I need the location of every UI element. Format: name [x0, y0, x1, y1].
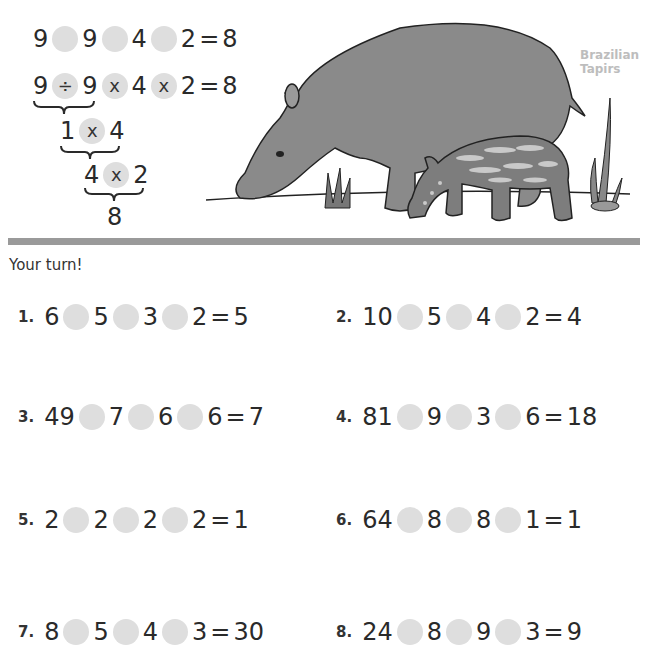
equals-sign: = [544, 617, 564, 647]
example-step1: 1 x 4 [60, 116, 125, 146]
operator-blank[interactable] [446, 619, 472, 645]
problem-number: 7. [18, 617, 34, 647]
operator-blank[interactable] [446, 404, 472, 430]
term: 8 [427, 617, 442, 647]
term: 2 [133, 160, 148, 190]
problem-8: 8. 24 8 9 3 = 9 [336, 617, 582, 647]
term: 6 [44, 302, 59, 332]
operator-blank[interactable] [113, 619, 139, 645]
term: 6 [207, 402, 222, 432]
term: 1 [60, 116, 75, 146]
operator-blank[interactable] [63, 507, 89, 533]
term: 3 [525, 617, 540, 647]
operator-blank[interactable] [397, 304, 423, 330]
term: 2 [181, 71, 196, 101]
operator-multiply: x [151, 73, 177, 99]
operator-blank[interactable] [446, 507, 472, 533]
term: 4 [132, 71, 147, 101]
problem-number: 6. [336, 505, 352, 535]
term: 8 [476, 505, 491, 535]
result: 18 [567, 402, 598, 432]
operator-blank[interactable] [128, 404, 154, 430]
operator-blank[interactable] [52, 26, 78, 52]
operator-blank[interactable] [162, 619, 188, 645]
operator-blank[interactable] [495, 404, 521, 430]
plant-icon [591, 158, 598, 203]
brace-icon [33, 100, 95, 116]
term: 4 [143, 617, 158, 647]
result: 7 [249, 402, 264, 432]
term: 6 [525, 402, 540, 432]
term: 8 [427, 505, 442, 535]
term: 9 [476, 617, 491, 647]
term: 1 [525, 505, 540, 535]
operator-blank[interactable] [113, 304, 139, 330]
equals-sign: = [210, 505, 230, 535]
term: 3 [192, 617, 207, 647]
operator-blank[interactable] [397, 619, 423, 645]
operator-blank[interactable] [495, 507, 521, 533]
problem-number: 2. [336, 302, 352, 332]
term: 6 [158, 402, 173, 432]
equals-sign: = [544, 402, 564, 432]
term: 5 [427, 302, 442, 332]
term: 3 [476, 402, 491, 432]
equals-sign: = [544, 505, 564, 535]
problem-4: 4. 81 9 3 6 = 18 [336, 402, 597, 432]
problem-7: 7. 8 5 4 3 = 30 [18, 617, 264, 647]
operator-blank[interactable] [397, 404, 423, 430]
plant-icon [598, 98, 611, 203]
operator-blank[interactable] [102, 26, 128, 52]
term: 5 [93, 617, 108, 647]
final-result: 8 [107, 202, 122, 232]
term: 2 [181, 24, 196, 54]
term: 8 [44, 617, 59, 647]
operator-multiply: x [102, 73, 128, 99]
term: 81 [362, 402, 393, 432]
section-divider [8, 238, 640, 245]
term: 2 [525, 302, 540, 332]
term: 3 [143, 302, 158, 332]
operator-blank[interactable] [113, 507, 139, 533]
problem-3: 3. 49 7 6 6 = 7 [18, 402, 264, 432]
term: 64 [362, 505, 393, 535]
term: 24 [362, 617, 393, 647]
operator-blank[interactable] [177, 404, 203, 430]
term: 2 [44, 505, 59, 535]
operator-blank[interactable] [495, 619, 521, 645]
term: 9 [82, 71, 97, 101]
operator-blank[interactable] [162, 304, 188, 330]
term: 2 [143, 505, 158, 535]
operator-blank[interactable] [63, 619, 89, 645]
term: 49 [44, 402, 75, 432]
rocks-icon [591, 201, 619, 211]
operator-blank[interactable] [63, 304, 89, 330]
equals-sign: = [226, 402, 246, 432]
term: 5 [93, 302, 108, 332]
problem-1: 1. 6 5 3 2 = 5 [18, 302, 249, 332]
example-final: 8 [107, 202, 122, 232]
operator-blank[interactable] [151, 26, 177, 52]
brace-icon [60, 145, 120, 161]
term: 4 [476, 302, 491, 332]
section-prompt: Your turn! [9, 256, 83, 274]
problem-number: 5. [18, 505, 34, 535]
operator-blank[interactable] [162, 507, 188, 533]
term: 2 [192, 302, 207, 332]
illustration-caption: Brazilian Tapirs [580, 48, 639, 76]
term: 10 [362, 302, 393, 332]
result: 5 [233, 302, 248, 332]
operator-blank[interactable] [79, 404, 105, 430]
term: 2 [192, 505, 207, 535]
operator-blank[interactable] [495, 304, 521, 330]
plant-icon [612, 178, 622, 203]
term: 9 [427, 402, 442, 432]
operator-blank[interactable] [446, 304, 472, 330]
equals-sign: = [210, 302, 230, 332]
term: 7 [109, 402, 124, 432]
result: 4 [567, 302, 582, 332]
problem-number: 8. [336, 617, 352, 647]
operator-divide: ÷ [52, 73, 78, 99]
result: 1 [233, 505, 248, 535]
operator-blank[interactable] [397, 507, 423, 533]
